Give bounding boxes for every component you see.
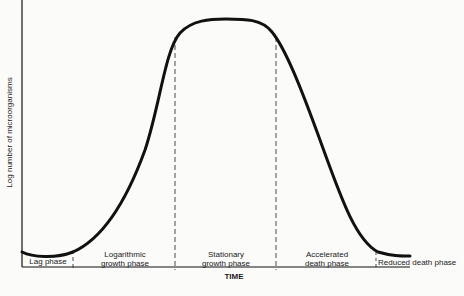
phase-label-stationary: Stationary growth phase <box>180 250 272 268</box>
x-axis-label: TIME <box>214 272 254 281</box>
phase-label-reduced-death: Reduced death phase <box>378 258 464 267</box>
y-axis-label: Log number of microorganisms <box>5 68 14 198</box>
phase-label-accelerated-death: Accelerated death phase <box>292 250 362 268</box>
phase-label-logarithmic: Logarithmic growth phase <box>80 250 170 268</box>
growth-curve <box>22 19 410 257</box>
phase-label-lag: Lag phase <box>24 257 72 266</box>
